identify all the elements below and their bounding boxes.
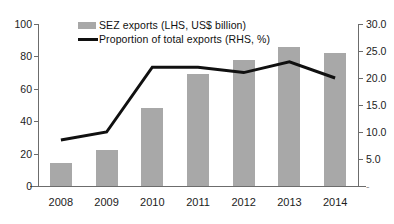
y-axis-right-label-5: 5.0 <box>366 154 381 165</box>
bar-2009 <box>96 150 118 186</box>
plot-area <box>38 24 358 186</box>
y-axis-right-label-15: 15.0 <box>366 100 386 111</box>
x-axis-label-2014: 2014 <box>323 196 347 208</box>
y-axis-left-tick <box>34 186 38 187</box>
y-axis-right-label-25: 25.0 <box>366 46 386 57</box>
y-axis-right-tick <box>359 105 363 106</box>
bar-2014 <box>324 53 346 186</box>
y-axis-right-label-0: - <box>366 181 370 192</box>
bar-2013 <box>278 47 300 186</box>
bar-2010 <box>141 108 163 186</box>
y-axis-left-label-0: 0 <box>2 181 32 192</box>
y-axis-right-label-10: 10.0 <box>366 127 386 138</box>
x-axis-label-2009: 2009 <box>94 196 118 208</box>
bar-2012 <box>233 60 255 186</box>
x-axis-label-2013: 2013 <box>277 196 301 208</box>
y-axis-right-tick <box>359 24 363 25</box>
y-axis-right-tick <box>359 132 363 133</box>
y-axis-left-label-60: 60 <box>2 84 32 95</box>
x-axis-line <box>30 186 366 187</box>
y-axis-right-tick <box>359 51 363 52</box>
x-axis-label-2012: 2012 <box>231 196 255 208</box>
y-axis-right-label-20: 20.0 <box>366 73 386 84</box>
y-axis-left-label-100: 100 <box>2 19 32 30</box>
bar-2008 <box>50 163 72 186</box>
x-axis-label-2010: 2010 <box>140 196 164 208</box>
x-axis-label-2011: 2011 <box>186 196 210 208</box>
x-axis-label-2008: 2008 <box>49 196 73 208</box>
bar-2011 <box>187 74 209 186</box>
y-axis-right-label-30: 30.0 <box>366 19 386 30</box>
y-axis-right-tick <box>359 78 363 79</box>
y-axis-right-tick <box>359 186 363 187</box>
y-axis-left-label-20: 20 <box>2 149 32 160</box>
y-axis-right-tick <box>359 159 363 160</box>
y-axis-left-label-40: 40 <box>2 116 32 127</box>
chart-container: SEZ exports (LHS, US$ billion) Proportio… <box>0 0 394 224</box>
y-axis-left-label-80: 80 <box>2 51 32 62</box>
